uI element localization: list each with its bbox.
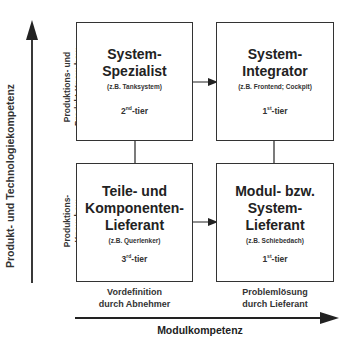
y-axis-label: Produkt- und Technologiekompetenz: [4, 76, 16, 276]
column-label-right-line2: durch Lieferant: [216, 298, 334, 310]
box-tier: 2nd-tier: [77, 105, 192, 116]
box-tier: 1st-tier: [217, 105, 333, 116]
box-title-line1: Modul- bzw.: [217, 183, 333, 200]
box-title-line2: Spezialist: [77, 63, 192, 80]
box-system-integrator: System- Integrator (z.B. Frontend; Cockp…: [216, 22, 334, 141]
box-title-line2: System-: [217, 200, 333, 217]
column-label-left: Vordefinition durch Abnehmer: [76, 286, 193, 310]
row-label-bottom-line1: Produktions-: [62, 176, 73, 266]
box-example: (z.B. Schiebedach): [217, 237, 333, 244]
column-label-left-line2: durch Abnehmer: [76, 298, 193, 310]
column-label-right-line1: Problemlösung: [216, 286, 334, 298]
row-label-top-line1: Produktions- und: [62, 32, 73, 142]
box-title-line2: Integrator: [217, 63, 333, 80]
box-title-line3: Lieferant: [217, 217, 333, 234]
box-title-line1: System-: [217, 46, 333, 63]
box-system-spezialist: System- Spezialist (z.B. Tanksystem) 2nd…: [76, 22, 193, 141]
box-tier: 3rd-tier: [77, 253, 192, 264]
column-label-left-line1: Vordefinition: [76, 286, 193, 298]
box-title-line1: System-: [77, 46, 192, 63]
x-axis-label: Modulkompetenz: [100, 324, 300, 336]
box-title-line1: Teile- und: [77, 183, 192, 200]
box-teile-komponenten-lieferant: Teile- und Komponenten- Lieferant (z.B. …: [76, 163, 193, 282]
box-tier: 1st-tier: [217, 253, 333, 264]
box-modul-system-lieferant: Modul- bzw. System- Lieferant (z.B. Schi…: [216, 163, 334, 282]
x-axis-arrow: [75, 312, 339, 324]
box-title-line3: Lieferant: [77, 217, 192, 234]
box-example: (z.B. Querlenker): [77, 237, 192, 244]
column-label-right: Problemlösung durch Lieferant: [216, 286, 334, 310]
box-example: (z.B. Tanksystem): [77, 83, 192, 90]
box-title-line2: Komponenten-: [77, 200, 192, 217]
y-axis-arrow: [26, 20, 38, 283]
box-example: (z.B. Frontend; Cockpit): [217, 83, 333, 90]
